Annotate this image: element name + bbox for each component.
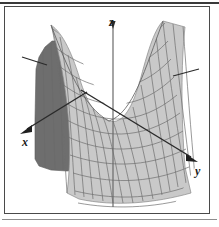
bottom-rule-divider [2,219,217,220]
y-axis-label: y [195,165,200,177]
z-axis-label: z [109,16,114,28]
x-axis-label: x [22,136,28,148]
figure-root: z x y [0,0,219,227]
top-rule-divider [0,2,219,4]
plot-frame: z x y [4,6,210,214]
front-sheet-fill [51,21,191,203]
surface-front-sheet [51,21,195,207]
surface-plot-svg [5,7,209,213]
